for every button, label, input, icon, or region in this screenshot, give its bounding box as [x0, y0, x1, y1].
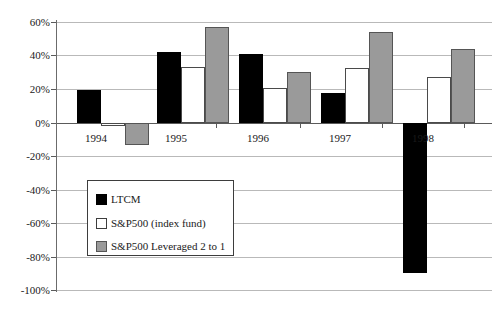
- y-tick-label: -80%: [6, 252, 50, 263]
- x-tick-label-1996: 1996: [228, 133, 288, 144]
- legend-item-sp500: S&P500 (index fund): [96, 216, 206, 230]
- bar-sp500-1996: [263, 88, 287, 123]
- bar-ltcm-1996: [239, 54, 263, 123]
- bar-sp500-1997: [345, 68, 369, 123]
- legend-item-leveraged: S&P500 Leveraged 2 to 1: [96, 239, 225, 253]
- bar-leveraged-1998: [451, 49, 475, 123]
- y-tick-label: 20%: [6, 84, 50, 95]
- bar-ltcm-1995: [157, 52, 181, 123]
- legend-item-ltcm: LTCM: [96, 192, 141, 206]
- x-tick-label-1998: 1998: [393, 133, 453, 144]
- legend-label: S&P500 Leveraged 2 to 1: [111, 240, 225, 252]
- bar-chart: 60% 40% 20% 0% -20% -40% -60% -80% -100%: [0, 0, 504, 315]
- legend-label: LTCM: [111, 193, 141, 205]
- y-tick-label: -60%: [6, 218, 50, 229]
- white-square-swatch-icon: [96, 218, 107, 229]
- y-tick-label: -20%: [6, 151, 50, 162]
- bar-ltcm-1998: [403, 123, 427, 273]
- y-tick-label: 60%: [6, 17, 50, 28]
- bar-leveraged-1995: [205, 27, 229, 123]
- bar-sp500-1995: [181, 67, 205, 123]
- y-axis: 60% 40% 20% 0% -20% -40% -60% -80% -100%: [0, 0, 50, 315]
- black-square-swatch-icon: [96, 194, 107, 205]
- gridline: [57, 290, 492, 291]
- bar-sp500-1994: [101, 123, 125, 126]
- bar-ltcm-1997: [321, 93, 345, 123]
- bar-sp500-1998: [427, 77, 451, 123]
- bar-leveraged-1996: [287, 72, 311, 123]
- y-tick-label: -100%: [6, 285, 50, 296]
- y-tick-label: -40%: [6, 185, 50, 196]
- x-tick-label-1997: 1997: [310, 133, 370, 144]
- legend-label: S&P500 (index fund): [111, 217, 206, 229]
- bar-ltcm-1994: [77, 90, 101, 123]
- x-tick-label-1994: 1994: [66, 133, 126, 144]
- y-tick-label: 40%: [6, 50, 50, 61]
- gray-square-swatch-icon: [96, 241, 107, 252]
- bar-leveraged-1997: [369, 32, 393, 123]
- x-tick-label-1995: 1995: [146, 133, 206, 144]
- chart-legend: LTCM S&P500 (index fund) S&P500 Leverage…: [87, 180, 234, 256]
- y-tick-label: 0%: [6, 118, 50, 129]
